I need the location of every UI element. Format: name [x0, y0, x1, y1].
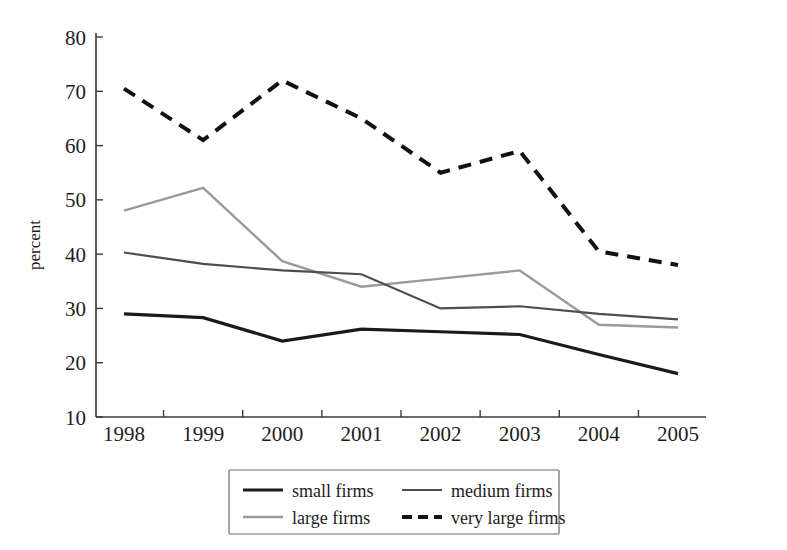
x-tick-label: 2000: [261, 422, 303, 446]
x-tick-label: 1998: [103, 422, 145, 446]
y-tick-label: 60: [65, 134, 86, 158]
y-tick-label: 30: [65, 297, 86, 321]
y-tick-label: 10: [65, 406, 86, 430]
y-tick-label: 50: [65, 188, 86, 212]
y-tick-label: 80: [65, 26, 86, 50]
legend-label-medium-firms: medium firms: [451, 481, 553, 501]
y-axis-tick-labels: 1020304050607080: [65, 26, 86, 430]
legend-label-small-firms: small firms: [292, 481, 374, 501]
chart-legend: small firmsmedium firmslarge firmsvery l…: [229, 470, 566, 534]
legend-label-large-firms: large firms: [292, 508, 370, 528]
x-tick-label: 2001: [340, 422, 382, 446]
x-tick-label: 2004: [578, 422, 621, 446]
x-axis-tick-labels: 19981999200020012002200320042005: [103, 422, 699, 446]
line-chart: 1020304050607080 19981999200020012002200…: [0, 0, 787, 550]
legend-label-very-large-firms: very large firms: [451, 508, 566, 528]
chart-canvas: 1020304050607080 19981999200020012002200…: [0, 0, 787, 550]
data-series-group: [124, 80, 678, 373]
x-tick-label: 2003: [499, 422, 541, 446]
y-tick-label: 40: [65, 243, 86, 267]
y-tick-label: 20: [65, 351, 86, 375]
series-line-medium-firms: [124, 253, 678, 320]
y-axis-title: percent: [25, 220, 44, 270]
y-axis-tick-marks: [96, 37, 103, 417]
series-line-large-firms: [124, 188, 678, 328]
x-axis-tick-marks: [164, 410, 639, 417]
y-tick-label: 70: [65, 80, 86, 104]
x-tick-label: 1999: [182, 422, 224, 446]
x-tick-label: 2002: [420, 422, 462, 446]
x-tick-label: 2005: [657, 422, 699, 446]
series-line-very-large-firms: [124, 80, 678, 265]
